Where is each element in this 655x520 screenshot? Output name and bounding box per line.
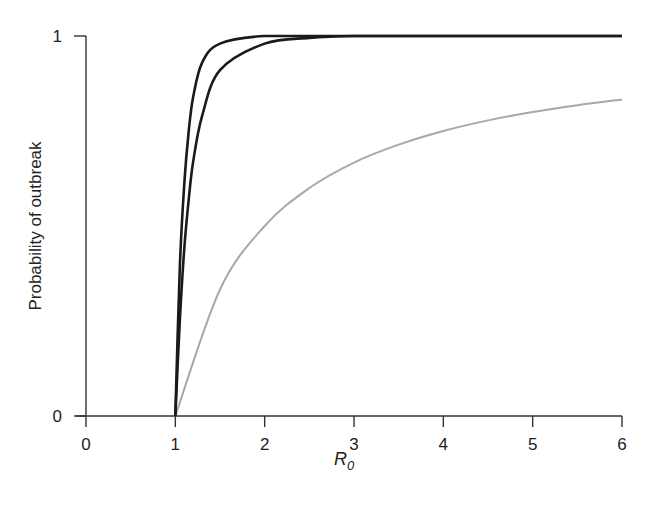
y-ticks: 01 xyxy=(53,27,86,426)
outbreak-probability-chart: 01 0123456 Probability of outbreak R0 xyxy=(0,0,655,520)
axes: 01 0123456 xyxy=(53,27,627,454)
x-ticks: 0123456 xyxy=(81,416,626,454)
x-tick-label: 1 xyxy=(171,435,180,454)
x-tick-label: 4 xyxy=(439,435,448,454)
y-tick-label: 1 xyxy=(53,27,62,46)
series-line xyxy=(175,99,622,416)
y-axis-label: Probability of outbreak xyxy=(26,141,45,311)
y-tick-label: 0 xyxy=(53,407,62,426)
x-tick-label: 6 xyxy=(617,435,626,454)
x-tick-label: 0 xyxy=(81,435,90,454)
series-line xyxy=(175,36,622,416)
x-tick-label: 3 xyxy=(349,435,358,454)
x-tick-label: 5 xyxy=(528,435,537,454)
series-lines xyxy=(175,36,622,416)
x-tick-label: 2 xyxy=(260,435,269,454)
series-line xyxy=(175,36,622,416)
